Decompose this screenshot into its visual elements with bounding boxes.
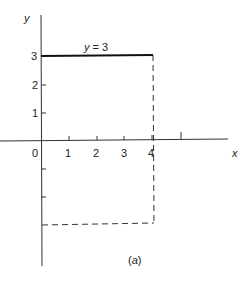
- figure-caption: (a): [128, 254, 141, 266]
- curve-label-rest: = 3: [90, 41, 109, 53]
- y-tick-label-2: 2: [32, 79, 38, 91]
- dashed-horizontal-bottom: [42, 223, 154, 225]
- x-tick-label-4: 4: [148, 147, 154, 159]
- x-ticks: [69, 132, 181, 140]
- x-tick-label-0: 0: [32, 147, 38, 159]
- y-tick-label-3: 3: [31, 50, 37, 62]
- x-tick-label-1: 1: [65, 147, 71, 159]
- dashed-vertical-x4: [153, 55, 154, 223]
- curve-label: y = 3: [83, 41, 108, 53]
- y-tick-label-1: 1: [32, 107, 38, 119]
- y-axis-label: y: [23, 12, 31, 24]
- x-axis-label: x: [231, 147, 238, 159]
- figure-canvas: y x 0 1 2 3 4 1 2 3 y = 3 (a): [0, 0, 249, 285]
- x-tick-label-3: 3: [121, 147, 127, 159]
- curve-y-equals-3: [41, 55, 153, 56]
- x-axis: [0, 139, 228, 141]
- x-tick-label-2: 2: [93, 147, 99, 159]
